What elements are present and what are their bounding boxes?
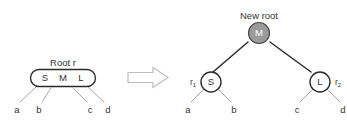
left-tree-group: Root r S M L a b c d	[14, 57, 110, 115]
right-edge-root-to-right	[270, 42, 311, 72]
left-edge-c	[73, 88, 87, 102]
right-node-s-side-label: r1	[190, 77, 197, 88]
left-leaf-label-b: b	[36, 104, 41, 115]
right-edge-root-to-left	[213, 42, 248, 72]
left-leaf-label-a: a	[14, 104, 20, 115]
left-edge-d	[88, 87, 104, 102]
right-tree-caption: New root	[240, 10, 278, 21]
left-edge-b	[42, 88, 51, 102]
right-node-l-side-label: r2	[335, 77, 342, 88]
right-node-label-s: S	[208, 76, 214, 87]
right-leaf-label-c: c	[295, 104, 300, 115]
right-tree-group: New root M S r1 L r2	[185, 10, 345, 115]
right-node-label-l: L	[317, 76, 322, 87]
left-leaf-label-c: c	[88, 104, 93, 115]
tree-split-diagram: Root r S M L a b c d	[0, 0, 347, 122]
right-edge-l-to-d	[327, 89, 340, 102]
left-root-key-0: S	[42, 72, 48, 83]
figure-canvas: Root r S M L a b c d	[0, 0, 347, 122]
left-tree-caption: Root r	[50, 57, 76, 68]
right-left-child-group: S r1	[190, 72, 231, 102]
right-edge-l-to-c	[300, 89, 313, 102]
right-leaf-label-d: d	[340, 104, 345, 115]
left-edge-a	[20, 87, 36, 102]
right-leaf-label-a: a	[185, 104, 191, 115]
right-right-child-group: L r2	[300, 72, 342, 102]
right-root-label-m: M	[255, 27, 263, 38]
right-leaf-label-b: b	[231, 104, 236, 115]
left-root-key-1: M	[59, 72, 67, 83]
left-tree-edges	[20, 87, 104, 102]
left-leaf-label-d: d	[105, 104, 110, 115]
right-edge-s-to-b	[218, 89, 231, 102]
double-right-arrow-icon	[128, 68, 168, 88]
left-root-key-2: L	[78, 72, 83, 83]
right-edge-s-to-a	[191, 89, 204, 102]
